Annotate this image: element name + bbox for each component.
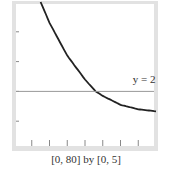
chart-series	[16, 2, 156, 111]
y-axis-ticks	[16, 32, 19, 121]
window-caption: [0, 80] by [0, 5]	[0, 153, 172, 165]
chart-annotations: y = 2	[133, 73, 156, 85]
curve-line	[41, 2, 156, 111]
line-label: y = 2	[133, 73, 156, 85]
chart-svg: y = 2	[0, 0, 172, 172]
x-axis-ticks	[32, 140, 139, 146]
